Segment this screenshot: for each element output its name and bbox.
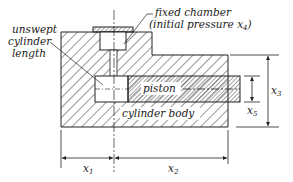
dimension-x2: x2 [115, 130, 228, 176]
fixed-chamber-label-2: (initial pressure x4) [149, 18, 252, 32]
svg-text:x3: x3 [271, 84, 282, 98]
cylinder-diagram: piston cylinder body fixed chamber (init… [0, 0, 293, 182]
unswept-label-3: length [12, 47, 46, 59]
unswept-label-2: cylinder [8, 35, 52, 47]
fixed-chamber-plate [93, 27, 133, 32]
svg-text:x5: x5 [247, 104, 258, 118]
unswept-label-1: unswept [12, 23, 58, 35]
svg-text:x1: x1 [83, 162, 93, 176]
piston: piston [128, 76, 240, 102]
fixed-chamber-cavity [100, 32, 126, 50]
cylinder-body-label: cylinder body [122, 107, 195, 119]
dimension-x5: x5 [244, 76, 260, 118]
piston-label: piston [143, 82, 176, 94]
dimension-x1: x1 [61, 130, 113, 176]
svg-text:x2: x2 [168, 162, 179, 176]
connecting-channel [110, 50, 117, 77]
fixed-chamber-label-1: fixed chamber [154, 6, 232, 18]
